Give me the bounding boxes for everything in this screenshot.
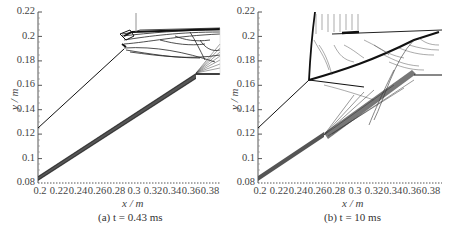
y-tick-label: 0.18 (221, 55, 255, 66)
panel-caption: (b) t = 10 ms (324, 211, 381, 223)
x-axis-title: x / m (342, 197, 363, 209)
y-axis-title: y / m (228, 89, 240, 110)
x-tick-label: 0.38 (419, 186, 443, 197)
panel-a: 0.22 0.2 0.18 0.16 0.14 0.12 0.1 0.08 0.… (0, 0, 225, 231)
panel-b: 0.22 0.2 0.18 0.16 0.14 0.12 0.1 0.08 0.… (224, 0, 449, 231)
y-tick-label: 0.22 (1, 6, 35, 17)
y-tick-label: 0.18 (1, 55, 35, 66)
y-tick-label: 0.12 (221, 128, 255, 139)
x-axis-title: x / m (122, 197, 143, 209)
x-tick-label: 0.38 (198, 186, 222, 197)
y-tick-label: 0.1 (1, 153, 35, 164)
panel-caption: (a) t = 0.43 ms (98, 211, 163, 223)
y-axis-title: y / m (8, 89, 20, 110)
y-tick-label: 0.1 (221, 153, 255, 164)
y-tick-label: 0.12 (1, 128, 35, 139)
y-tick-label: 0.2 (1, 31, 35, 42)
y-tick-label: 0.2 (221, 31, 255, 42)
y-tick-label: 0.22 (221, 6, 255, 17)
